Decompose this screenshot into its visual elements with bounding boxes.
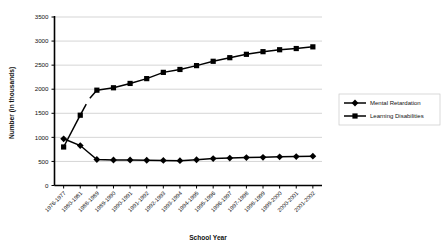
data-point-marker — [277, 47, 282, 52]
chart-legend: Mental RetardationLearning Disabilities — [339, 94, 440, 125]
data-point-marker — [194, 63, 199, 68]
legend-box — [339, 94, 440, 125]
y-tick-label: 0 — [45, 182, 49, 189]
data-point-marker — [94, 88, 99, 93]
data-point-marker — [161, 70, 166, 75]
y-tick-label: 500 — [38, 158, 49, 165]
y-tick-label: 2500 — [35, 61, 49, 68]
y-axis-title: Number (in thousands) — [8, 67, 16, 139]
data-point-marker — [127, 81, 132, 86]
chart-container: 0500100015002000250030003500 1976-197719… — [0, 0, 442, 252]
data-point-marker — [260, 49, 265, 54]
x-axis-title: School Year — [189, 234, 227, 241]
data-point-marker — [227, 55, 232, 60]
legend-label: Learning Disabilities — [370, 113, 424, 119]
data-point-marker — [177, 67, 182, 72]
data-point-marker — [211, 59, 216, 64]
data-point-marker — [78, 113, 83, 118]
data-point-marker — [111, 85, 116, 90]
y-tick-label: 1500 — [35, 109, 49, 116]
chart-background — [0, 0, 442, 252]
legend-marker-square — [352, 113, 357, 118]
data-point-marker — [61, 144, 66, 149]
y-tick-label: 3500 — [35, 13, 49, 20]
y-tick-label: 2000 — [35, 85, 49, 92]
y-tick-label: 1000 — [35, 134, 49, 141]
data-point-marker — [244, 52, 249, 57]
data-point-marker — [294, 46, 299, 51]
data-point-marker — [144, 76, 149, 81]
y-tick-label: 3000 — [35, 37, 49, 44]
legend-label: Mental Retardation — [370, 100, 421, 106]
line-chart: 0500100015002000250030003500 1976-197719… — [0, 0, 442, 252]
data-point-marker — [310, 44, 315, 49]
